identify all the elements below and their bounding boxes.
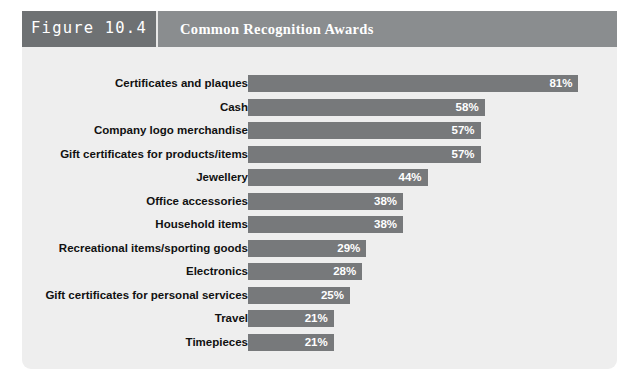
bar-value-label: 38% xyxy=(374,193,397,210)
bar-category-label: Recreational items/sporting goods xyxy=(59,240,248,257)
bar-row: Cash58% xyxy=(22,99,617,116)
bar-category-label: Jewellery xyxy=(196,169,248,186)
bar-category-label: Electronics xyxy=(186,263,248,280)
bar-row: Office accessories38% xyxy=(22,193,617,210)
bar-value-label: 21% xyxy=(305,310,328,327)
bar-value-label: 81% xyxy=(549,75,572,92)
bar[interactable]: 38% xyxy=(248,216,403,233)
bar-value-label: 21% xyxy=(305,334,328,351)
bar[interactable]: 81% xyxy=(248,75,578,92)
bar[interactable]: 25% xyxy=(248,287,350,304)
bar-row: Certificates and plaques81% xyxy=(22,75,617,92)
bar-row: Gift certificates for products/items57% xyxy=(22,146,617,163)
bar-track: 81% xyxy=(248,75,578,92)
bar[interactable]: 58% xyxy=(248,99,485,116)
bar[interactable]: 57% xyxy=(248,122,481,139)
bar-chart: Certificates and plaques81%Cash58%Compan… xyxy=(22,47,617,369)
bar[interactable]: 57% xyxy=(248,146,481,163)
bar-track: 58% xyxy=(248,99,485,116)
bar-category-label: Cash xyxy=(220,99,248,116)
bar-value-label: 44% xyxy=(398,169,421,186)
bar[interactable]: 21% xyxy=(248,310,334,327)
bar-track: 21% xyxy=(248,334,334,351)
bar-row: Recreational items/sporting goods29% xyxy=(22,240,617,257)
figure-title: Common Recognition Awards xyxy=(158,21,374,38)
bar-category-label: Gift certificates for products/items xyxy=(60,146,248,163)
figure-header: Figure 10.4 Common Recognition Awards xyxy=(22,11,617,47)
bar-category-label: Office accessories xyxy=(146,193,248,210)
bar-category-label: Gift certificates for personal services xyxy=(45,287,248,304)
bar-track: 29% xyxy=(248,240,366,257)
bar[interactable]: 44% xyxy=(248,169,428,186)
bar-value-label: 29% xyxy=(337,240,360,257)
bar-track: 28% xyxy=(248,263,362,280)
bar[interactable]: 21% xyxy=(248,334,334,351)
bar-category-label: Travel xyxy=(215,310,248,327)
bar-row: Electronics28% xyxy=(22,263,617,280)
bar-track: 21% xyxy=(248,310,334,327)
bar-track: 57% xyxy=(248,146,481,163)
bar-category-label: Company logo merchandise xyxy=(94,122,248,139)
bar-row: Household items38% xyxy=(22,216,617,233)
bar-track: 38% xyxy=(248,193,403,210)
bar-value-label: 38% xyxy=(374,216,397,233)
bar-category-label: Timepieces xyxy=(186,334,248,351)
bar-row: Company logo merchandise57% xyxy=(22,122,617,139)
bar-track: 25% xyxy=(248,287,350,304)
bar-row: Jewellery44% xyxy=(22,169,617,186)
bar[interactable]: 38% xyxy=(248,193,403,210)
figure-card: Figure 10.4 Common Recognition Awards Ce… xyxy=(22,11,617,369)
bar-track: 44% xyxy=(248,169,428,186)
bar[interactable]: 29% xyxy=(248,240,366,257)
bar-category-label: Household items xyxy=(155,216,248,233)
bar-value-label: 57% xyxy=(452,146,475,163)
bar-row: Timepieces21% xyxy=(22,334,617,351)
bar-value-label: 58% xyxy=(456,99,479,116)
figure-number-label: Figure 10.4 xyxy=(31,21,147,37)
bar-value-label: 28% xyxy=(333,263,356,280)
figure-title-band: Common Recognition Awards xyxy=(156,11,617,47)
bar[interactable]: 28% xyxy=(248,263,362,280)
bar-value-label: 57% xyxy=(452,122,475,139)
bar-track: 38% xyxy=(248,216,403,233)
bar-row: Gift certificates for personal services2… xyxy=(22,287,617,304)
bar-row: Travel21% xyxy=(22,310,617,327)
bar-category-label: Certificates and plaques xyxy=(115,75,248,92)
bar-track: 57% xyxy=(248,122,481,139)
figure-number-band: Figure 10.4 xyxy=(22,11,156,47)
bar-value-label: 25% xyxy=(321,287,344,304)
